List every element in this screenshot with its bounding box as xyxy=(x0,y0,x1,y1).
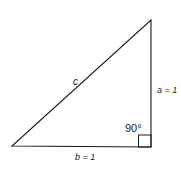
hypotenuse-label: c xyxy=(73,76,78,87)
side-a-label: a = 1 xyxy=(157,85,177,95)
right-triangle-diagram: 90° c a = 1 b = 1 xyxy=(0,0,181,172)
right-angle-marker xyxy=(139,135,152,147)
angle-label: 90° xyxy=(125,122,142,134)
side-b-label: b = 1 xyxy=(75,152,95,162)
